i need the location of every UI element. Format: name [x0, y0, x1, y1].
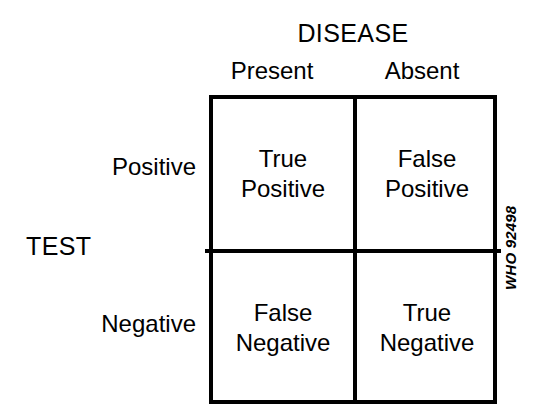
- row-group-title: TEST: [26, 232, 92, 260]
- source-credit: WHO 92498: [503, 206, 519, 290]
- column-group-title: DISEASE: [209, 19, 497, 47]
- row-header-positive: Positive: [0, 152, 196, 182]
- cell-true-negative-label: True Negative: [380, 298, 475, 358]
- column-header-absent: Absent: [350, 56, 494, 86]
- column-header-present: Present: [200, 56, 344, 86]
- cell-false-negative-label: False Negative: [236, 298, 331, 358]
- row-header-negative: Negative: [0, 309, 196, 339]
- cell-true-positive: True Positive: [213, 99, 353, 249]
- figure-canvas: DISEASE Present Absent TEST Positive Neg…: [0, 0, 543, 419]
- cell-false-positive-label: False Positive: [385, 144, 469, 204]
- cell-true-negative: True Negative: [357, 253, 497, 403]
- cell-true-positive-label: True Positive: [241, 144, 325, 204]
- cell-false-negative: False Negative: [213, 253, 353, 403]
- contingency-matrix: True Positive False Positive False Negat…: [209, 95, 497, 404]
- cell-false-positive: False Positive: [357, 99, 497, 249]
